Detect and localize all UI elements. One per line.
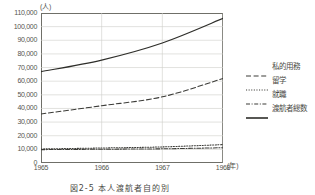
y-axis-tick-label: 70,000 — [17, 64, 37, 71]
legend-label: 私的用務 — [272, 60, 300, 71]
x-axis-unit-label: (年) — [227, 160, 239, 170]
y-axis-tick-labels: 110,000100,00090,00080,00070,00060,00050… — [0, 13, 39, 163]
y-axis-tick-label: 10,000 — [17, 145, 37, 152]
figure-caption: 図2-5 本人渡航者自的別 — [0, 182, 240, 193]
y-axis-tick-label: 50,000 — [17, 91, 37, 98]
y-axis-tick-label: 90,000 — [17, 36, 37, 43]
x-axis-tick-label: 1966 — [94, 164, 108, 171]
chart-legend: 私的用務留学就職渡航者総数 — [246, 58, 315, 114]
legend-label: 渡航者総数 — [272, 102, 307, 113]
figure-container: (人) 110,000100,00090,00080,00070,00060,0… — [0, 0, 315, 195]
x-axis-tick-labels: 1965196619671968 — [41, 164, 223, 176]
y-axis-tick-label: 20,000 — [17, 132, 37, 139]
y-axis-tick-label: 100,000 — [14, 23, 37, 30]
y-axis-tick-label: 40,000 — [17, 104, 37, 111]
x-axis-tick-label: 1965 — [34, 164, 48, 171]
legend-label: 留学 — [272, 74, 286, 85]
y-axis-tick-label: 80,000 — [17, 50, 37, 57]
y-axis-tick-label: 60,000 — [17, 77, 37, 84]
x-axis-tick-label: 1967 — [155, 164, 169, 171]
chart-canvas — [41, 13, 223, 163]
legend-item: 私的用務 — [246, 58, 315, 72]
y-axis-tick-label: 30,000 — [17, 118, 37, 125]
y-axis-tick-label: 110,000 — [14, 9, 37, 16]
plot-area — [41, 13, 223, 163]
legend-label: 就職 — [272, 88, 286, 99]
y-axis-unit-label: (人) — [40, 1, 51, 11]
